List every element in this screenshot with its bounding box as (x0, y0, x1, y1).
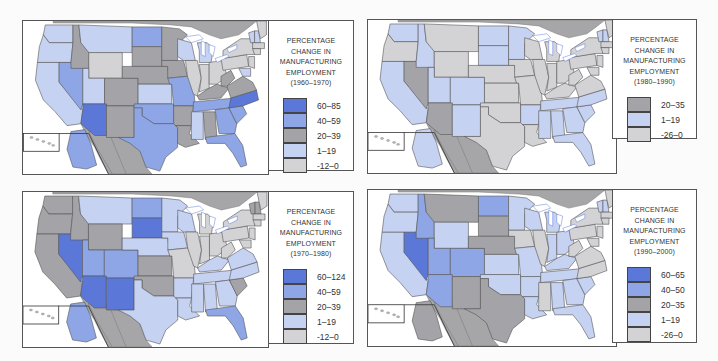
legend-label: 60–85 (317, 101, 341, 111)
legend-item: 20–39 (283, 129, 353, 144)
state-nd (132, 198, 162, 218)
legend-swatch (627, 97, 651, 112)
state-nj (249, 57, 255, 69)
state-mt (79, 25, 132, 53)
legend-1990-2000: PERCENTAGE CHANGE IN MANUFACTURING EMPLO… (612, 189, 697, 343)
state-sd (478, 216, 508, 236)
legend-item: 60–65 (627, 268, 696, 283)
legend-title-line: (1980–1990) (613, 77, 696, 88)
hawaii-island (397, 143, 400, 145)
state-ks (138, 84, 172, 104)
state-nm (452, 105, 480, 137)
legend-title-line: PERCENTAGE (269, 207, 353, 218)
state-co (450, 248, 484, 276)
legend-label: 20–39 (317, 131, 341, 141)
state-nj (249, 228, 255, 240)
legend-item: 40–59 (283, 285, 353, 300)
state-ms (191, 112, 203, 140)
us-map-1970-1980 (22, 191, 269, 348)
legend-item: 1–19 (627, 313, 696, 328)
hawaii-island (51, 317, 54, 319)
state-ks (138, 256, 172, 276)
legend-title: PERCENTAGE CHANGE IN MANUFACTURING EMPLO… (613, 205, 696, 258)
state-mt (424, 24, 478, 52)
state-ks (484, 83, 518, 103)
state-ma (253, 43, 265, 49)
legend-swatch (283, 158, 307, 173)
legend-label: -26–0 (661, 130, 683, 140)
legend-title-line: (1990–2000) (613, 247, 696, 258)
legend-label: 20–39 (317, 302, 341, 312)
us-map-1960-1970 (22, 20, 269, 175)
legend-label: 60–65 (661, 270, 685, 280)
state-wa (388, 194, 418, 212)
state-wa (43, 25, 73, 43)
legend-label: -12–0 (317, 332, 339, 342)
legend-swatch (283, 299, 307, 314)
state-wa (388, 24, 418, 42)
state-sd (478, 46, 508, 66)
legend-swatch (283, 143, 307, 158)
state-md (239, 68, 251, 76)
state-ms (192, 284, 204, 312)
state-co (450, 77, 484, 105)
hawaii-island (47, 315, 50, 317)
map-svg (23, 21, 268, 174)
hawaii-inset-frame (368, 133, 404, 151)
legend-swatch (283, 269, 307, 284)
state-wa (43, 196, 73, 214)
legend-label: 20–35 (661, 100, 685, 110)
state-sd (132, 218, 162, 238)
map-svg (368, 190, 616, 346)
hawaii-island (397, 316, 400, 318)
legend-swatch (627, 127, 651, 142)
hawaii-island (392, 141, 395, 143)
state-nd (132, 27, 162, 47)
hawaii-island (386, 312, 389, 314)
hawaii-island (41, 313, 44, 315)
legend-label: 40–50 (661, 285, 685, 295)
hawaii-island (392, 314, 395, 316)
legend-items: 20–351–19-26–0 (627, 98, 696, 143)
state-wy (89, 53, 123, 79)
legend-item: -12–0 (283, 159, 353, 174)
state-ms (539, 111, 551, 139)
state-nm (107, 106, 135, 138)
legend-item: 1–19 (283, 315, 353, 330)
hawaii-island (48, 142, 51, 144)
legend-title-line: EMPLOYMENT (269, 239, 353, 250)
hawaii-island (42, 140, 45, 142)
legend-items: 60–6540–5020–351–19-26–0 (627, 268, 696, 343)
legend-item: 20–35 (627, 98, 696, 113)
state-ma (253, 214, 265, 220)
legend-1970-1980: PERCENTAGE CHANGE IN MANUFACTURING EMPLO… (268, 191, 354, 344)
legend-item: 40–59 (283, 114, 353, 129)
legend-title-line: CHANGE IN (269, 47, 353, 58)
legend-swatch (283, 98, 307, 113)
legend-item: 20–35 (627, 298, 696, 313)
legend-title-line: MANUFACTURING (269, 228, 353, 239)
great-lake (549, 210, 553, 226)
legend-label: 1–19 (661, 315, 680, 325)
state-fl (206, 306, 248, 340)
state-co (105, 78, 139, 106)
state-co (104, 250, 138, 278)
legend-swatch (283, 113, 307, 128)
state-nd (478, 26, 508, 46)
state-nd (478, 196, 508, 216)
state-nj (597, 226, 603, 238)
state-mt (424, 194, 478, 222)
legend-swatch (283, 284, 307, 299)
hawaii-island (380, 310, 383, 312)
state-ar (521, 105, 541, 125)
legend-title: PERCENTAGE CHANGE IN MANUFACTURING EMPLO… (269, 36, 353, 89)
legend-title-line: EMPLOYMENT (613, 237, 696, 248)
hawaii-island (30, 136, 33, 138)
legend-title-line: (1960–1970) (269, 78, 353, 89)
state-wy (434, 52, 468, 78)
legend-item: 1–19 (627, 113, 696, 128)
legend-item: 1–19 (283, 144, 353, 159)
state-al (551, 283, 565, 311)
legend-swatch (283, 314, 307, 329)
legend-1980-1990: PERCENTAGE CHANGE IN MANUFACTURING EMPLO… (612, 19, 697, 139)
